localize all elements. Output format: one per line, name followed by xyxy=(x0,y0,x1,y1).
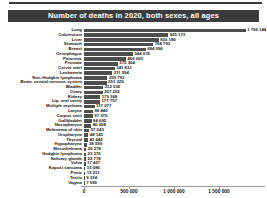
chart-page: Number of deaths in 2020, both sexes, al… xyxy=(0,0,267,198)
tick-label: 1 000 000 xyxy=(154,189,194,194)
bar xyxy=(84,172,85,176)
bar xyxy=(84,176,85,180)
x-axis-line xyxy=(81,186,265,187)
bar xyxy=(84,181,85,185)
bar xyxy=(84,105,95,109)
bar xyxy=(84,110,93,114)
bar xyxy=(84,138,88,142)
category-label: Vagina xyxy=(8,181,82,186)
top-rule xyxy=(9,2,262,4)
bar xyxy=(84,153,86,157)
bar xyxy=(84,76,107,80)
tick-label: 1 500 000 xyxy=(199,189,239,194)
tick-label: 0 xyxy=(64,189,104,194)
bar xyxy=(84,38,159,42)
bar xyxy=(84,95,100,99)
bar xyxy=(84,62,118,66)
bar xyxy=(84,67,115,71)
bar xyxy=(84,71,112,75)
bar xyxy=(84,119,92,123)
value-label: 7 995 xyxy=(86,181,97,186)
bar xyxy=(84,157,86,161)
tick-label: 500 000 xyxy=(109,189,149,194)
bar xyxy=(84,114,93,118)
bar xyxy=(84,29,246,33)
bar xyxy=(84,33,168,37)
chart-title: Number of deaths in 2020, both sexes, al… xyxy=(8,10,259,22)
bar xyxy=(84,91,103,95)
bar xyxy=(84,86,103,90)
bar-chart: Lung1 796 144Colorectum935 173Liver830 1… xyxy=(8,28,267,185)
bar xyxy=(84,162,86,166)
bar xyxy=(84,52,133,56)
bar-row: Vagina7 995 xyxy=(8,181,267,186)
bar xyxy=(84,167,85,171)
bar xyxy=(84,148,86,152)
bar xyxy=(84,43,153,47)
bar xyxy=(84,133,88,137)
bar xyxy=(84,129,89,133)
bar xyxy=(84,143,87,147)
bar xyxy=(84,81,107,85)
